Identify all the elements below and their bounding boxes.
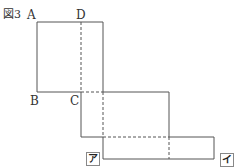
label-a: A	[27, 9, 36, 21]
figure-title: 図3	[3, 9, 21, 20]
label-c: C	[70, 95, 79, 107]
marker-i: イ	[220, 153, 234, 167]
label-b: B	[30, 95, 39, 107]
label-d: D	[76, 9, 86, 21]
marker-a: ア	[86, 152, 100, 166]
figure-diagram	[0, 0, 243, 168]
